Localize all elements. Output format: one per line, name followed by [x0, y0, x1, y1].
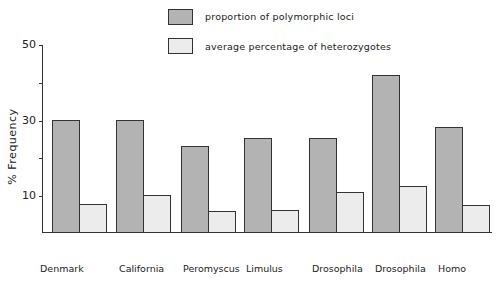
label-line: Homo — [438, 262, 474, 275]
legend-swatch-heterozygotes — [168, 38, 193, 54]
bar-heterozygotes — [336, 192, 364, 233]
label-line: Peromyscus — [183, 262, 240, 275]
label-line: Drosophila — [312, 262, 363, 275]
bar-heterozygotes — [79, 204, 107, 233]
y-tick-10 — [39, 196, 43, 197]
bar-polymorphic-loci — [435, 127, 463, 232]
bar-polymorphic-loci — [244, 138, 272, 232]
legend-swatch-polymorphic-loci — [168, 9, 193, 25]
bar-polymorphic-loci — [181, 146, 209, 232]
category-label-limulus: Limulus polyphenis — [246, 236, 298, 282]
y-tick-label-30: 30 — [8, 114, 36, 127]
category-label-homo-sapiens: Homo sapiens — [438, 236, 474, 282]
label-line: Drosophila — [375, 262, 426, 275]
legend-label-polymorphic-loci: proportion of polymorphic loci — [205, 11, 354, 22]
bar-heterozygotes — [399, 186, 427, 233]
bar-polymorphic-loci — [309, 138, 337, 232]
category-label-drosophila-persimilis: Drosophila persimilis — [312, 236, 363, 282]
y-axis-line — [42, 45, 43, 233]
y-tick-label-10: 10 — [8, 189, 36, 202]
category-label-drosophila-pseudoobscura: Drosophila pseudo- obscura — [375, 236, 426, 282]
label-line: Denmark — [40, 262, 119, 275]
bar-heterozygotes — [208, 211, 236, 232]
y-tick-20 — [39, 158, 43, 159]
bar-polymorphic-loci — [52, 120, 80, 233]
category-label-denmark: Denmark mouse (mus musculus) — [40, 236, 119, 282]
label-line: Limulus — [246, 262, 298, 275]
bar-heterozygotes — [143, 195, 171, 233]
y-tick-30 — [39, 121, 43, 122]
legend-label-heterozygotes: average percentage of heterozygotes — [205, 41, 391, 52]
bar-polymorphic-loci — [116, 120, 144, 233]
y-tick-40 — [39, 83, 43, 84]
bar-heterozygotes — [271, 210, 299, 232]
y-tick-50 — [39, 45, 43, 46]
bar-heterozygotes — [462, 205, 490, 232]
category-label-california: California — [119, 236, 164, 282]
bar-polymorphic-loci — [372, 75, 400, 233]
label-line: California — [119, 262, 164, 275]
x-axis-line — [42, 232, 492, 233]
category-label-peromyscus: Peromyscus — [183, 236, 240, 282]
y-tick-label-50: 50 — [8, 38, 36, 51]
